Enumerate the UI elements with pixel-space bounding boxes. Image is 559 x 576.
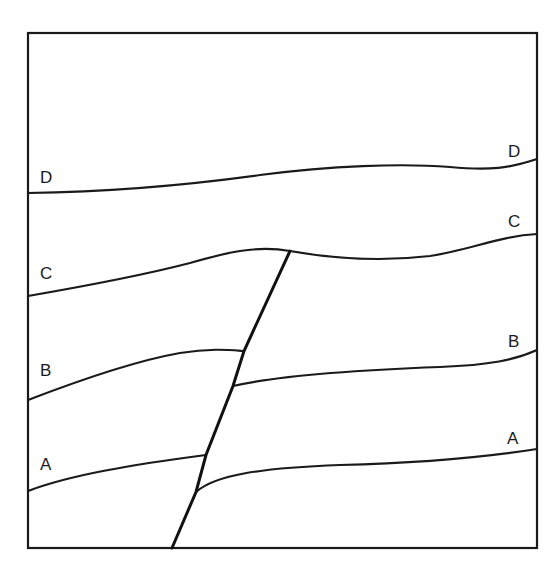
label-c-left: C xyxy=(40,264,52,283)
label-d-right: D xyxy=(508,142,520,161)
label-a-left: A xyxy=(40,455,52,474)
layer-a-left-contact xyxy=(28,455,206,491)
label-b-right: B xyxy=(508,332,519,351)
layer-b-right-contact xyxy=(233,350,537,386)
layer-a-right-contact xyxy=(196,449,537,492)
fault-line xyxy=(172,251,290,548)
label-c-right: C xyxy=(508,212,520,231)
layer-d-contact xyxy=(28,159,537,193)
label-d-left: D xyxy=(40,168,52,187)
cross-section-diagram: D C B A D C B A xyxy=(0,0,559,576)
layer-b-left-contact xyxy=(28,350,244,400)
label-b-left: B xyxy=(40,361,51,380)
label-a-right: A xyxy=(507,429,519,448)
